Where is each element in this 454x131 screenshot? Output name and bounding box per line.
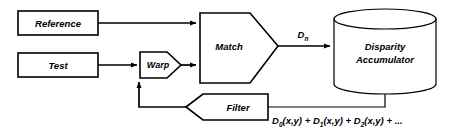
dn-subscript: n bbox=[304, 35, 308, 42]
node-test[interactable]: Test bbox=[18, 53, 98, 77]
formula-term1-args: (x,y) bbox=[283, 115, 303, 126]
node-disparity-accumulator[interactable]: Disparity Accumulator bbox=[334, 9, 436, 94]
node-reference[interactable]: Reference bbox=[18, 11, 98, 35]
edge-filter-to-warp bbox=[139, 82, 186, 107]
test-label: Test bbox=[48, 60, 68, 71]
accumulator-label-line1: Disparity bbox=[365, 41, 406, 52]
edge-accumulator-to-filter bbox=[268, 93, 385, 107]
diagram-canvas: Reference Test Warp Match Filter Dispari… bbox=[0, 0, 454, 131]
accumulation-formula: D0(x,y) + D1(x,y) + D2(x,y) + ... bbox=[272, 115, 403, 128]
formula-ellipsis: ... bbox=[395, 115, 403, 126]
edge-label-dn: Dn bbox=[298, 29, 309, 42]
node-match[interactable]: Match bbox=[200, 13, 278, 83]
node-warp[interactable]: Warp bbox=[140, 52, 181, 78]
formula-op2: + bbox=[343, 115, 354, 126]
formula-op1: + bbox=[302, 115, 313, 126]
formula-op3: + bbox=[384, 115, 395, 126]
node-filter[interactable]: Filter bbox=[186, 94, 268, 120]
formula-term3-args: (x,y) bbox=[364, 115, 384, 126]
formula-term2-args: (x,y) bbox=[323, 115, 343, 126]
warp-label: Warp bbox=[147, 60, 170, 70]
filter-label: Filter bbox=[226, 102, 251, 113]
reference-label: Reference bbox=[35, 18, 82, 29]
match-label: Match bbox=[215, 41, 243, 52]
accumulator-cylinder-top bbox=[334, 9, 436, 29]
accumulator-label-line2: Accumulator bbox=[355, 54, 415, 65]
svg-text:D0(x,y) + D1(x,y) + D2(x,y) +: D0(x,y) + D1(x,y) + D2(x,y) + ... bbox=[272, 115, 403, 128]
svg-text:Dn: Dn bbox=[298, 29, 309, 42]
flow-diagram: Reference Test Warp Match Filter Dispari… bbox=[0, 0, 454, 131]
